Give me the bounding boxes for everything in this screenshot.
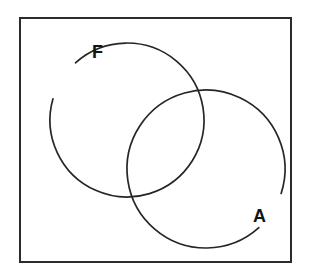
set-label-a: A [253,206,266,226]
diagram-canvas: F A [0,0,310,278]
set-label-f: F [92,42,103,62]
venn-diagram-figure: F A [0,0,310,278]
universal-set-frame [20,18,291,262]
